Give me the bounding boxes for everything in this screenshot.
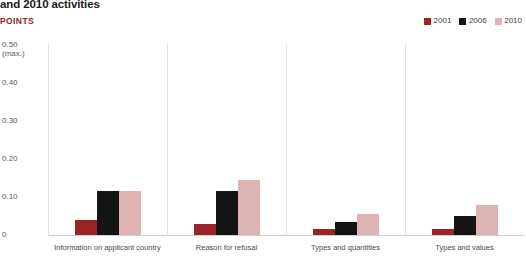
bar-2010[interactable] xyxy=(357,214,379,235)
y-axis-tick-0-40: 0.40 xyxy=(2,78,46,87)
bar-2006[interactable] xyxy=(97,191,119,235)
x-axis-label-2: Reason for refusal xyxy=(167,243,286,252)
bar-2010[interactable] xyxy=(476,205,498,235)
y-axis-tick-0-50: 0.50(max.) xyxy=(2,40,46,58)
bar-2006[interactable] xyxy=(454,216,476,235)
bar-panel-4 xyxy=(405,44,524,236)
y-tick-sublabel: (max.) xyxy=(2,49,46,58)
bar-group xyxy=(49,45,167,235)
bar-2006[interactable] xyxy=(335,222,357,235)
y-tick-label: 0.50 xyxy=(2,40,18,49)
bar-2001[interactable] xyxy=(75,220,97,235)
bar-panel-2 xyxy=(167,44,286,236)
y-axis-unit-label: POINTS xyxy=(0,16,34,26)
y-tick-label: 0.40 xyxy=(2,78,18,87)
panel-baseline xyxy=(49,235,167,236)
y-tick-label: 0.20 xyxy=(2,154,18,163)
legend-item-2010: 2010 xyxy=(495,17,522,25)
legend-label-2010: 2010 xyxy=(504,17,522,25)
legend-item-2006: 2006 xyxy=(459,17,486,25)
bar-2006[interactable] xyxy=(216,191,238,235)
y-axis-tick-0-20: 0.20 xyxy=(2,154,46,163)
bar-2001[interactable] xyxy=(194,224,216,235)
panel-baseline xyxy=(168,235,286,236)
legend-swatch-2001 xyxy=(424,18,431,25)
bar-panel-1 xyxy=(48,44,167,236)
legend-item-2001: 2001 xyxy=(424,17,451,25)
y-tick-label: 0.30 xyxy=(2,116,18,125)
panel-baseline xyxy=(406,235,524,236)
chart-legend: 2001 2006 2010 xyxy=(424,17,522,25)
page-title: and 2010 activities xyxy=(0,0,100,10)
y-tick-label: 0 xyxy=(2,230,6,239)
y-axis-tick-0-10: 0.10 xyxy=(2,192,46,201)
legend-swatch-2010 xyxy=(495,18,502,25)
bar-panels xyxy=(48,44,524,236)
legend-label-2001: 2001 xyxy=(434,17,452,25)
bar-2010[interactable] xyxy=(119,191,141,235)
y-tick-label: 0.10 xyxy=(2,192,18,201)
bar-group xyxy=(406,45,524,235)
panel-baseline xyxy=(287,235,405,236)
x-axis-label-3: Types and quantities xyxy=(286,243,405,252)
legend-swatch-2006 xyxy=(459,18,466,25)
y-axis-tick-0-30: 0.30 xyxy=(2,116,46,125)
bar-group xyxy=(168,45,286,235)
x-axis-label-4: Types and values xyxy=(405,243,524,252)
x-axis-category-labels: Information on applicant countryReason f… xyxy=(48,243,524,252)
legend-label-2006: 2006 xyxy=(469,17,487,25)
y-axis-tick-0: 0 xyxy=(2,230,46,239)
bar-panel-3 xyxy=(286,44,405,236)
chart-plot-area: 0.50(max.)0.400.300.200.100 xyxy=(0,44,526,236)
x-axis-label-1: Information on applicant country xyxy=(48,243,167,252)
bar-2010[interactable] xyxy=(238,180,260,235)
bar-group xyxy=(287,45,405,235)
